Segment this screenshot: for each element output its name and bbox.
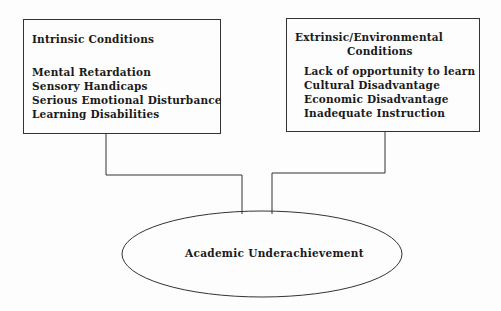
extrinsic-item: Inadequate Instruction — [304, 106, 445, 120]
extrinsic-item: Economic Disadvantage — [304, 92, 449, 106]
extrinsic-title-line1: Extrinsic/Environmental — [295, 30, 443, 44]
diagram-canvas: Intrinsic Conditions Mental Retardation … — [0, 0, 501, 311]
extrinsic-title-line2: Conditions — [347, 44, 413, 58]
intrinsic-item: Sensory Handicaps — [32, 79, 148, 93]
extrinsic-connector — [272, 131, 385, 214]
intrinsic-item: Serious Emotional Disturbance — [32, 93, 222, 107]
intrinsic-connector — [106, 133, 242, 214]
extrinsic-item: Cultural Disadvantage — [304, 78, 440, 92]
outcome-label: Academic Underachievement — [185, 247, 364, 259]
intrinsic-item: Mental Retardation — [32, 65, 151, 79]
extrinsic-item: Lack of opportunity to learn — [304, 64, 475, 78]
intrinsic-item: Learning Disabilities — [32, 107, 159, 121]
intrinsic-title: Intrinsic Conditions — [32, 32, 154, 46]
